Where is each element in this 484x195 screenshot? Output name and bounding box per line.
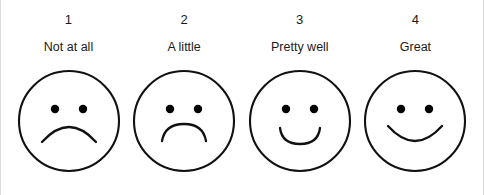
left-eye: [282, 105, 290, 113]
option-number-2: 2: [180, 12, 187, 28]
face-circle: [134, 71, 234, 171]
option-label-1: Not at all: [44, 40, 93, 55]
rating-option-2[interactable]: 2 A little: [128, 0, 241, 174]
rating-option-1[interactable]: 1 Not at all: [12, 0, 125, 174]
face-circle: [365, 71, 465, 171]
happy-face-icon[interactable]: [362, 68, 468, 174]
right-eye: [194, 105, 202, 113]
smiley-face-rating-scale: 1 Not at all 2 A little: [0, 0, 484, 195]
right-eye: [78, 105, 86, 113]
rating-option-3[interactable]: 3 Pretty well: [243, 0, 356, 174]
face-circle: [19, 71, 119, 171]
option-number-4: 4: [412, 12, 419, 28]
left-eye: [397, 105, 405, 113]
rating-options-row: 1 Not at all 2 A little: [0, 0, 484, 195]
option-number-1: 1: [65, 12, 72, 28]
right-eye: [310, 105, 318, 113]
option-label-3: Pretty well: [271, 40, 329, 55]
sad-face-icon[interactable]: [16, 68, 122, 174]
face-circle: [250, 71, 350, 171]
left-eye: [50, 105, 58, 113]
right-eye: [425, 105, 433, 113]
rating-option-4[interactable]: 4 Great: [359, 0, 472, 174]
option-label-4: Great: [400, 40, 431, 55]
option-number-3: 3: [296, 12, 303, 28]
option-label-2: A little: [167, 40, 200, 55]
left-eye: [166, 105, 174, 113]
slightly-sad-face-icon[interactable]: [131, 68, 237, 174]
slightly-happy-face-icon[interactable]: [247, 68, 353, 174]
